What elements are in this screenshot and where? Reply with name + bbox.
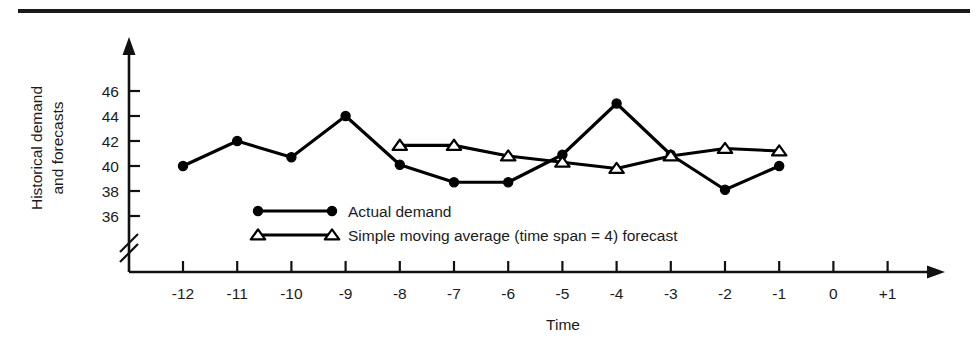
y-axis-tick-label: 42 (102, 133, 119, 150)
chart-legend: Actual demandSimple moving average (time… (251, 203, 678, 244)
data-point-circle-marker (287, 153, 296, 162)
data-point-circle-marker (612, 99, 621, 108)
y-axis-tick-label: 38 (102, 183, 119, 200)
data-point-circle-marker (504, 178, 513, 187)
data-point-circle-marker (720, 185, 729, 194)
x-axis-tick-label: -3 (664, 285, 678, 302)
chart-series (178, 99, 783, 194)
x-axis-title: Time (546, 316, 580, 333)
x-axis-tick-label: -2 (718, 285, 732, 302)
data-point-circle-marker (775, 161, 784, 170)
x-axis-tick-label: -10 (280, 285, 303, 302)
data-point-circle-marker (178, 161, 187, 170)
x-axis-tick-label: -12 (172, 285, 194, 302)
line-chart: Historical demand and forecasts 36384042… (0, 0, 979, 358)
x-axis-tick-label: 0 (829, 285, 838, 302)
data-point-circle-marker (233, 136, 242, 145)
x-tick-layer: -12-11-10-9-8-7-6-5-4-3-2-10+1 (172, 261, 897, 302)
legend-marker-circle (253, 206, 262, 215)
legend-item: Simple moving average (time span = 4) fo… (251, 227, 678, 244)
legend-label: Simple moving average (time span = 4) fo… (348, 227, 678, 244)
x-axis-tick-label: -7 (447, 285, 461, 302)
x-axis-tick-label: +1 (879, 285, 897, 302)
chart-series (393, 140, 787, 173)
x-axis-tick-label: -4 (610, 285, 624, 302)
x-axis-tick-label: -8 (393, 285, 407, 302)
y-axis-tick-label: 46 (102, 83, 119, 100)
legend-item: Actual demand (253, 203, 451, 220)
x-axis-arrow-icon (927, 266, 945, 279)
y-tick-layer: 363840424446 (102, 83, 140, 225)
series-layer (178, 99, 786, 194)
data-point-circle-marker (341, 111, 350, 120)
y-axis-tick-label: 44 (102, 108, 120, 125)
y-axis-label: Historical demand and forecasts (28, 86, 66, 210)
y-axis-arrow-icon (123, 37, 136, 55)
x-axis-tick-label: -11 (227, 285, 248, 302)
y-axis-tick-label: 36 (102, 208, 119, 225)
data-point-circle-marker (395, 160, 404, 169)
series-line (183, 104, 779, 190)
x-axis-tick-label: -5 (556, 285, 570, 302)
x-axis-tick-label: -9 (339, 285, 353, 302)
y-axis-tick-label: 40 (102, 158, 120, 175)
y-axis-label-line2: and forecasts (49, 101, 66, 194)
x-axis-tick-label: -6 (501, 285, 515, 302)
x-axis-tick-label: -1 (772, 285, 786, 302)
legend-marker-circle (327, 206, 336, 215)
legend-label: Actual demand (348, 203, 451, 220)
figure-container: Historical demand and forecasts 36384042… (0, 0, 979, 358)
y-axis-label-line1: Historical demand (28, 86, 45, 210)
data-point-circle-marker (449, 178, 458, 187)
